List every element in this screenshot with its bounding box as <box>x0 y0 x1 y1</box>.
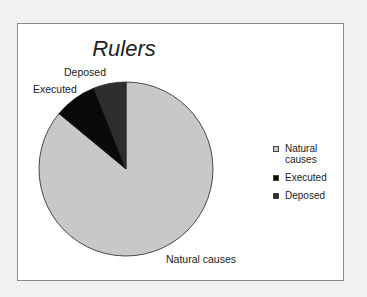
legend-item-natural-causes: Natural causes <box>273 143 335 165</box>
legend-swatch-deposed <box>273 193 279 199</box>
label-deposed: Deposed <box>64 66 106 78</box>
legend-item-executed: Executed <box>273 172 335 183</box>
legend-label: Deposed <box>285 190 335 201</box>
legend-swatch-executed <box>273 175 279 181</box>
legend-item-deposed: Deposed <box>273 190 335 201</box>
label-natural-causes: Natural causes <box>166 253 236 265</box>
legend-label: Executed <box>285 172 335 183</box>
label-executed: Executed <box>33 83 77 95</box>
legend-label: Natural causes <box>285 143 335 165</box>
legend-swatch-natural <box>273 146 279 152</box>
legend: Natural causes Executed Deposed <box>273 143 335 208</box>
